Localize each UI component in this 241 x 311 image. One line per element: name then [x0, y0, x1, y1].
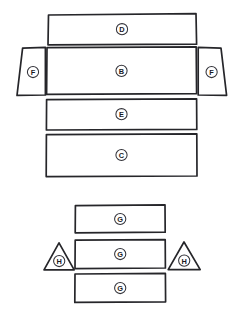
panel-f-right[interactable]: F: [198, 47, 226, 95]
panel-c[interactable]: C: [46, 134, 197, 177]
panel-b-label: B: [119, 67, 124, 76]
diagram-canvas: D F B F: [0, 0, 241, 311]
upper-assembly-group: D F B F: [17, 14, 227, 177]
panel-e[interactable]: E: [46, 99, 196, 130]
panel-g-middle[interactable]: G: [75, 240, 165, 269]
panel-layout-diagram: D F B F: [0, 0, 241, 311]
bracket-h-left-label: H: [57, 257, 62, 266]
bracket-h-right-label: H: [182, 257, 187, 266]
panel-g-top-label: G: [117, 215, 123, 224]
lower-assembly-group: G H G H: [44, 205, 200, 303]
panel-g-top[interactable]: G: [75, 205, 165, 233]
panel-d[interactable]: D: [48, 14, 197, 45]
panel-e-label: E: [119, 110, 124, 119]
panel-g-bottom-label: G: [117, 284, 123, 293]
panel-g-middle-label: G: [117, 250, 123, 259]
bracket-h-left[interactable]: H: [44, 243, 74, 270]
panel-c-label: C: [119, 151, 125, 160]
panel-b[interactable]: B: [47, 47, 197, 95]
bracket-h-right[interactable]: H: [168, 242, 200, 270]
panel-d-label: D: [119, 25, 125, 34]
panel-f-left[interactable]: F: [17, 47, 45, 95]
panel-f-right-label: F: [209, 68, 214, 77]
panel-g-bottom[interactable]: G: [75, 273, 166, 302]
panel-f-left-label: F: [31, 68, 36, 77]
